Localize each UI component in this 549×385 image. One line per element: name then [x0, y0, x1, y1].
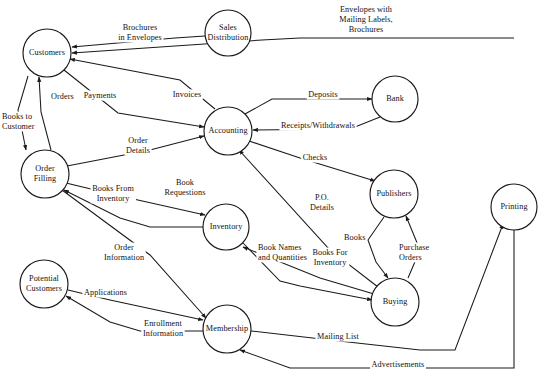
flow-label-text-books-to-customer: Books toCustomer [2, 112, 35, 131]
flow-label-payments: Payments [82, 90, 118, 100]
node-order-filling[interactable]: OrderFilling [21, 150, 69, 198]
node-label-customers: Customers [29, 48, 65, 57]
flow-label-order-details: OrderDetails [124, 136, 151, 156]
node-bank[interactable]: Bank [372, 76, 418, 122]
flow-label-deposits: Deposits [307, 89, 340, 99]
flow-label-book-names-and-quantities: Book Namesand Quantities [256, 243, 308, 263]
flow-label-text-payments: Payments [84, 91, 117, 100]
node-label-buying: Buying [383, 297, 408, 306]
nodes-layer: CustomersSalesDistributionAccountingBank… [20, 10, 537, 353]
flow-label-book-requestions: BookRequestions [163, 178, 207, 198]
flow-label-text-checks: Checks [303, 153, 328, 162]
flow-label-text-mailing-list: Mailing List [317, 332, 360, 341]
flow-label-purchase-orders: PurchaseOrders [397, 243, 431, 263]
node-inventory[interactable]: Inventory [203, 204, 249, 250]
flow-label-text-books-from-inventory: Books FromInventory [92, 184, 134, 203]
flow-label-brochures-in-envelopes: Brochuresin Envelopes [117, 23, 164, 43]
flow-label-advertisements: Advertisements [370, 359, 426, 369]
node-potential-customers[interactable]: PotentialCustomers [20, 260, 68, 308]
flow-label-checks: Checks [301, 152, 329, 162]
flow-label-text-enrollment-information: EnrollmentInformation [143, 319, 183, 338]
node-label-order-filling: OrderFilling [34, 164, 57, 183]
node-sales-distribution[interactable]: SalesDistribution [205, 10, 251, 56]
node-label-membership: Membership [206, 324, 248, 333]
flow-label-text-book-names-and-quantities: Book Namesand Quantities [258, 243, 307, 262]
flow-label-text-applications: Applications [84, 288, 127, 297]
node-publishers[interactable]: Publishers [370, 170, 418, 218]
node-label-accounting: Accounting [208, 126, 247, 135]
flow-po-details [239, 150, 378, 287]
node-buying[interactable]: Buying [371, 278, 419, 326]
flow-label-invoices: Invoices [171, 89, 203, 99]
flow-label-po-details: P.O.Details [308, 193, 335, 213]
node-membership[interactable]: Membership [203, 305, 251, 353]
flow-label-text-books-for-inventory: Books ForInventory [312, 248, 347, 267]
node-label-publishers: Publishers [376, 189, 411, 198]
flow-label-books-for-inventory: Books ForInventory [311, 248, 350, 268]
flow-label-text-order-details: OrderDetails [126, 136, 150, 155]
flow-deposits [245, 99, 372, 114]
flow-label-text-receipts-withdrawals: Receipts/Withdrawals [281, 121, 355, 130]
flow-invoices [70, 59, 215, 109]
node-printing[interactable]: Printing [491, 184, 537, 230]
flow-label-applications: Applications [82, 287, 128, 297]
node-label-bank: Bank [386, 94, 404, 103]
flow-label-orders: Orders [49, 91, 75, 101]
flow-label-mailing-list: Mailing List [315, 331, 361, 341]
flow-orders [39, 77, 51, 150]
flow-label-receipts-withdrawals: Receipts/Withdrawals [279, 120, 356, 130]
flow-label-text-orders: Orders [51, 92, 74, 101]
flow-label-books: Books [342, 232, 367, 242]
data-flow-diagram-canvas: CustomersSalesDistributionAccountingBank… [0, 0, 549, 385]
flow-label-books-to-customer: Books toCustomer [0, 112, 36, 132]
flow-label-text-invoices: Invoices [173, 90, 202, 99]
dfd-svg: CustomersSalesDistributionAccountingBank… [0, 0, 549, 385]
flow-label-books-from-inventory: Books FromInventory [91, 184, 136, 204]
flow-books [368, 217, 388, 278]
node-label-printing: Printing [500, 202, 527, 211]
node-customers[interactable]: Customers [23, 29, 71, 77]
node-accounting[interactable]: Accounting [204, 107, 252, 155]
flow-label-text-deposits: Deposits [308, 90, 337, 99]
flow-label-text-advertisements: Advertisements [372, 360, 425, 369]
flow-label-enrollment-information: EnrollmentInformation [141, 319, 184, 339]
flow-label-order-information: OrderInformation [102, 243, 145, 263]
flow-label-text-books: Books [344, 233, 365, 242]
flow-label-envelopes-with-mailing-labels-brochures: Envelopes withMailing Labels,Brochures [338, 5, 395, 34]
flow-label-text-brochures-in-envelopes: Brochuresin Envelopes [118, 23, 162, 42]
node-label-potential-customers: PotentialCustomers [26, 274, 62, 293]
node-label-inventory: Inventory [210, 222, 244, 231]
